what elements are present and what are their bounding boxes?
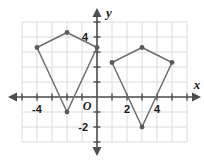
coordinate-plane-figure: yxO-4244-2 — [0, 0, 204, 162]
y-axis-arrow-up — [93, 8, 102, 17]
x-axis-arrow-right — [192, 93, 201, 102]
vertex-point — [65, 30, 70, 35]
vertex-point — [65, 110, 70, 115]
y-tick-label: 4 — [82, 31, 89, 43]
axis-text-labels: yxO-4244-2 — [32, 5, 201, 133]
x-tick-label: 4 — [154, 103, 161, 115]
y-axis-label: y — [104, 5, 112, 20]
x-axis-arrow-left — [8, 93, 17, 102]
vertex-point — [170, 60, 175, 65]
vertex-point — [140, 125, 145, 130]
origin-label: O — [83, 99, 92, 113]
y-axis-arrow-down — [93, 147, 102, 156]
x-tick-label: -4 — [32, 103, 43, 115]
plotted-shapes — [37, 33, 172, 128]
vertex-point — [95, 45, 100, 50]
x-axis-label: x — [193, 77, 201, 92]
vertex-point — [110, 60, 115, 65]
y-tick-label: -2 — [78, 121, 88, 133]
coordinate-plane-svg: yxO-4244-2 — [0, 0, 204, 162]
vertex-point — [35, 45, 40, 50]
x-tick-label: 2 — [124, 103, 130, 115]
vertex-point — [140, 45, 145, 50]
